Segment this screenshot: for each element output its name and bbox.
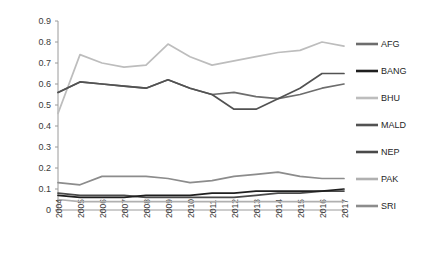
legend-label-bhu: BHU [381, 93, 400, 103]
line-chart: 00.10.20.30.40.50.60.70.80.9 20042005200… [0, 0, 421, 260]
series-line-sri [58, 172, 344, 185]
legend-item-nep: NEP [356, 147, 400, 157]
series-line-mald [58, 74, 344, 110]
legend-item-afg: AFG [356, 39, 400, 49]
series-line-afg [58, 80, 344, 99]
legend-item-bhu: BHU [356, 93, 400, 103]
chart-legend: AFGBANGBHUMALDNEPPAKSRI [356, 39, 407, 211]
legend-label-mald: MALD [381, 120, 407, 130]
legend-label-pak: PAK [381, 174, 398, 184]
legend-label-bang: BANG [381, 66, 407, 76]
chart-canvas: 00.10.20.30.40.50.60.70.80.9 20042005200… [0, 0, 421, 260]
y-tick-label: 0.2 [38, 163, 51, 173]
y-tick-label: 0.7 [38, 58, 51, 68]
legend-label-nep: NEP [381, 147, 400, 157]
legend-item-bang: BANG [356, 66, 407, 76]
y-tick-label: 0.3 [38, 142, 51, 152]
y-tick-label: 0.4 [38, 121, 51, 131]
y-tick-label: 0.8 [38, 37, 51, 47]
legend-label-afg: AFG [381, 39, 400, 49]
y-tick-label: 0.6 [38, 79, 51, 89]
y-tick-group: 00.10.20.30.40.50.60.70.80.9 [38, 16, 58, 215]
legend-label-sri: SRI [381, 201, 396, 211]
series-group [58, 42, 344, 202]
legend-item-sri: SRI [356, 201, 396, 211]
y-tick-label: 0.1 [38, 184, 51, 194]
y-tick-label: 0 [46, 205, 51, 215]
series-line-bhu [58, 42, 344, 113]
y-tick-label: 0.9 [38, 16, 51, 26]
x-tick-label: 2004 [54, 199, 64, 218]
y-tick-label: 0.5 [38, 100, 51, 110]
legend-item-mald: MALD [356, 120, 407, 130]
y-axis: 00.10.20.30.40.50.60.70.80.9 [38, 16, 58, 215]
legend-item-pak: PAK [356, 174, 398, 184]
